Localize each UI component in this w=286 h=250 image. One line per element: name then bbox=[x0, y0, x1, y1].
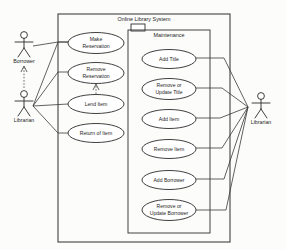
association-connectors bbox=[33, 42, 248, 210]
use-case-remove-reservation[interactable]: Remove Reservation bbox=[68, 63, 124, 84]
assoc-librarian-add-title[interactable] bbox=[196, 58, 248, 107]
package-title: Maintenance bbox=[154, 32, 185, 38]
assoc-librarian-make-reservation[interactable] bbox=[33, 42, 68, 106]
actor-label: Librarian bbox=[251, 119, 272, 125]
assoc-librarian-remove-reservation[interactable] bbox=[33, 72, 68, 106]
actor-head-icon bbox=[21, 91, 28, 98]
assoc-librarian-remove-or-update-borrower[interactable] bbox=[196, 107, 248, 210]
use-case-make-reservation[interactable]: Make Reservation bbox=[68, 33, 124, 54]
actor-legs-icon bbox=[18, 107, 30, 116]
use-case-add-title[interactable]: Add Title bbox=[142, 50, 196, 69]
actor-legs-icon bbox=[18, 48, 30, 57]
actor-label: Borrower bbox=[13, 58, 35, 64]
system-boundary-title: Online Library System bbox=[117, 16, 171, 22]
actor-head-icon bbox=[21, 32, 28, 39]
use-case-label-line-2: Update Borrower bbox=[150, 210, 189, 216]
use-case-add-borrower[interactable]: Add Borrower bbox=[142, 171, 196, 190]
use-case-label-line-1: Remove or bbox=[157, 203, 182, 209]
uml-canvas: Online Library System Maintenance bbox=[0, 0, 286, 250]
use-case-add-item[interactable]: Add Item bbox=[142, 110, 196, 129]
use-case-label-line-1: Remove Item bbox=[154, 146, 184, 152]
assoc-borrower-make-reservation[interactable] bbox=[33, 42, 68, 46]
use-case-label-line-1: Make bbox=[90, 36, 103, 42]
use-case-return-of-item[interactable]: Return of Item bbox=[68, 124, 124, 143]
actor-librarian-right[interactable]: Librarian bbox=[251, 93, 272, 126]
use-case-label-line-1: Add Title bbox=[159, 56, 179, 62]
use-case-label-line-1: Lend Item bbox=[85, 101, 108, 107]
use-case-label-line-2: Reservation bbox=[82, 43, 109, 49]
actor-head-icon bbox=[258, 93, 265, 100]
assoc-librarian-lend-item[interactable] bbox=[33, 104, 68, 106]
use-case-label-line-1: Return of Item bbox=[80, 130, 112, 136]
use-case-label-line-1: Remove or bbox=[157, 82, 182, 88]
use-case-remove-item[interactable]: Remove Item bbox=[142, 140, 196, 159]
use-case-lend-item[interactable]: Lend Item bbox=[68, 95, 124, 114]
actor-legs-icon bbox=[255, 109, 267, 118]
actor-borrower[interactable]: Borrower bbox=[13, 32, 35, 65]
use-case-label-line-1: Add Borrower bbox=[153, 177, 184, 183]
assoc-librarian-add-item[interactable] bbox=[196, 107, 248, 118]
use-case-remove-or-update-title[interactable]: Remove or Update Title bbox=[142, 79, 196, 100]
use-case-label-line-2: Reservation bbox=[82, 73, 109, 79]
actor-librarian-left[interactable]: Librarian bbox=[14, 91, 35, 124]
use-case-label-line-2: Update Title bbox=[155, 89, 182, 95]
use-case-remove-or-update-borrower[interactable]: Remove or Update Borrower bbox=[142, 200, 196, 221]
assoc-librarian-return-of-item[interactable] bbox=[33, 106, 68, 133]
actor-label: Librarian bbox=[14, 117, 35, 123]
use-case-label-line-1: Remove bbox=[87, 66, 106, 72]
use-case-label-line-1: Add Item bbox=[159, 116, 179, 122]
use-case-diagram: Online Library System Maintenance bbox=[0, 0, 286, 250]
use-case-group-maintenance: Add Title Remove or Update Title Add Ite… bbox=[142, 50, 196, 221]
